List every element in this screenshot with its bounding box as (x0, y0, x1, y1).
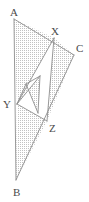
shaded-regions-group (14, 19, 74, 180)
vertex-label-X: X (51, 25, 59, 37)
shaded-region-triangle-X-C-Z (47, 38, 74, 121)
vertex-label-A: A (10, 6, 18, 18)
shaded-region-triangle-Y-Z-B (16, 104, 47, 180)
vertex-label-Y: Y (3, 98, 11, 110)
vertex-label-B: B (13, 186, 20, 198)
figure-canvas: AXCYZB (0, 0, 89, 202)
geometry-figure: AXCYZB (0, 0, 89, 202)
vertex-label-C: C (76, 42, 83, 54)
vertex-label-Z: Z (49, 122, 56, 134)
